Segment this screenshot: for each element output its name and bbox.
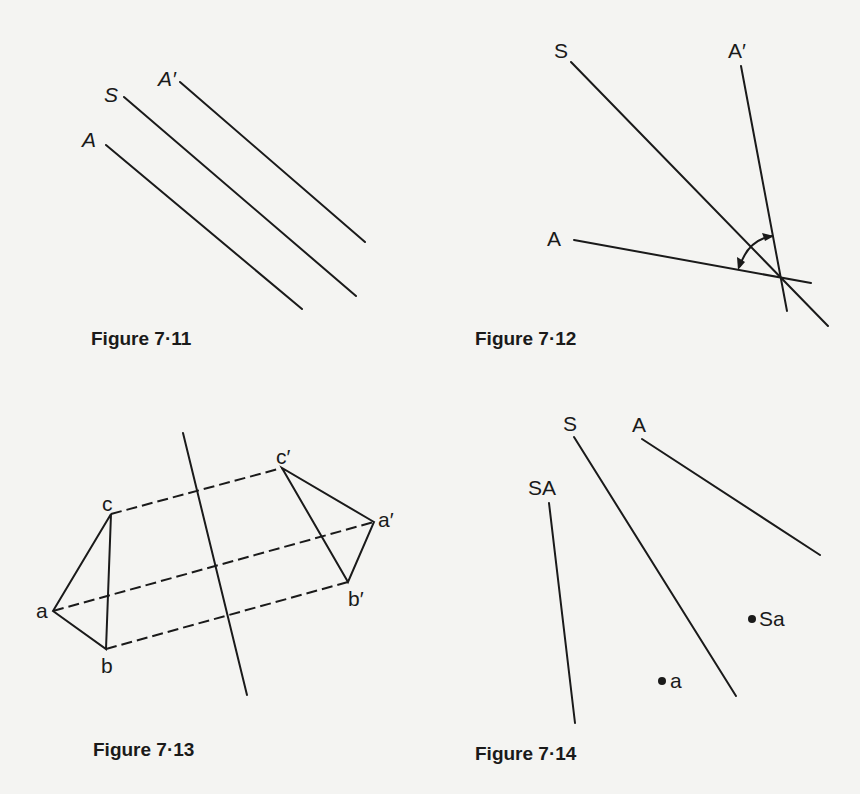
line-a-prime <box>180 82 365 242</box>
caption-figure-7-14: Figure 7·14 <box>475 743 577 764</box>
label-a: A <box>632 413 646 436</box>
figure-page: A′ S A Figure 7·11 S A′ A Figure 7·12 c … <box>0 0 860 794</box>
caption-figure-7-11: Figure 7·11 <box>91 328 192 349</box>
triangle-abc <box>53 514 111 649</box>
dashed-c-c-prime <box>111 468 282 514</box>
label-b-prime: b′ <box>348 587 364 610</box>
label-sa: SA <box>528 476 556 499</box>
label-c: c <box>102 492 113 515</box>
figure-7-13: c c′ a a′ b b′ Figure 7·13 <box>36 433 394 760</box>
mirror-line <box>183 433 247 695</box>
figure-7-14: S A SA Sa a Figure 7·14 <box>475 412 820 764</box>
label-s: S <box>563 412 577 435</box>
point-a <box>658 677 666 685</box>
label-a-prime: A′ <box>156 67 177 90</box>
label-a: a <box>36 599 48 622</box>
line-a <box>642 439 820 555</box>
triangle-a-prime-b-prime-c-prime <box>282 468 374 582</box>
caption-figure-7-12: Figure 7·12 <box>475 328 576 349</box>
line-a <box>106 145 302 309</box>
line-sa <box>549 503 575 723</box>
label-a-prime: a′ <box>378 508 394 531</box>
label-a: A <box>80 128 96 151</box>
label-s: S <box>554 39 568 62</box>
line-s <box>124 97 356 296</box>
arrowhead-lower-icon <box>737 257 745 270</box>
label-c-prime: c′ <box>276 445 291 468</box>
label-b: b <box>101 654 113 677</box>
label-point-a: a <box>670 669 682 692</box>
label-a: A <box>547 227 561 250</box>
caption-figure-7-13: Figure 7·13 <box>93 739 194 760</box>
figure-7-12: S A′ A Figure 7·12 <box>475 39 828 349</box>
line-s <box>571 62 828 326</box>
label-point-sa: Sa <box>759 607 785 630</box>
line-s <box>574 437 736 696</box>
label-s: S <box>104 83 118 106</box>
point-sa <box>748 615 756 623</box>
label-a-prime: A′ <box>728 39 746 62</box>
figure-7-11: A′ S A Figure 7·11 <box>80 67 365 349</box>
dashed-a-a-prime <box>53 522 374 611</box>
